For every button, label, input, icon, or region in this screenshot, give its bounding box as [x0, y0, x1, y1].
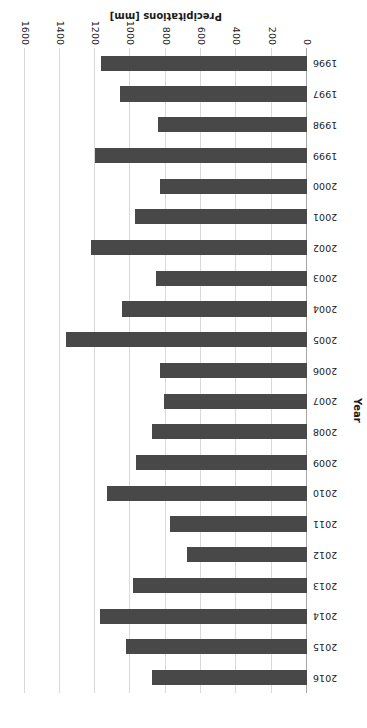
bar-row: 2015 [25, 632, 307, 663]
category-label-2010: 2010 [313, 488, 337, 499]
bar-2002 [91, 240, 307, 255]
bar-2009 [136, 455, 307, 470]
category-label-1999: 1999 [313, 150, 337, 161]
bar-2006 [160, 363, 307, 378]
bar-2015 [126, 639, 307, 654]
category-label-1998: 1998 [313, 119, 337, 130]
bar-row: 2011 [25, 509, 307, 540]
category-label-2000: 2000 [313, 181, 337, 192]
bar-2010 [107, 486, 307, 501]
category-label-2014: 2014 [313, 611, 337, 622]
category-label-2012: 2012 [313, 549, 337, 560]
value-axis-title: Precipitations [mm] [25, 11, 307, 22]
bar-2004 [122, 301, 307, 316]
bar-2000 [160, 179, 307, 194]
category-axis-title: Year [352, 398, 363, 423]
bar-1999 [95, 148, 307, 163]
value-tick-label-1200: 1200 [90, 21, 101, 45]
bar-2003 [156, 271, 307, 286]
bar-row: 2001 [25, 202, 307, 233]
bar-2007 [164, 394, 307, 409]
bar-2008 [152, 424, 307, 439]
value-tick-label-800: 800 [160, 27, 171, 45]
bar-2011 [170, 516, 307, 531]
bar-2012 [187, 547, 307, 562]
value-tick-label-1400: 1400 [54, 21, 65, 45]
category-label-2011: 2011 [313, 519, 337, 530]
category-label-2009: 2009 [313, 457, 337, 468]
bar-2001 [135, 209, 307, 224]
category-label-2005: 2005 [313, 334, 337, 345]
bar-row: 2005 [25, 324, 307, 355]
category-label-2006: 2006 [313, 365, 337, 376]
bar-row: 2004 [25, 294, 307, 325]
bar-row: 2007 [25, 386, 307, 417]
value-tick-label-1000: 1000 [125, 21, 136, 45]
bar-row: 2008 [25, 417, 307, 448]
category-label-2002: 2002 [313, 242, 337, 253]
category-label-2015: 2015 [313, 641, 337, 652]
category-label-2013: 2013 [313, 580, 337, 591]
bar-row: 2000 [25, 171, 307, 202]
bar-row: 2006 [25, 355, 307, 386]
bar-2005 [66, 332, 307, 347]
value-tick-label-0: 0 [302, 39, 313, 45]
bar-row: 2012 [25, 539, 307, 570]
bar-2016 [152, 670, 307, 685]
bar-row: 2013 [25, 570, 307, 601]
bar-row: 1998 [25, 109, 307, 140]
category-label-2001: 2001 [313, 211, 337, 222]
bar-row: 2016 [25, 662, 307, 693]
value-tick-label-400: 400 [231, 27, 242, 45]
category-label-2008: 2008 [313, 426, 337, 437]
chart-figure-rotator: 1996199719981999200020012002200320042005… [0, 0, 367, 728]
bar-row: 1996 [25, 48, 307, 79]
bar-row: 2014 [25, 601, 307, 632]
bar-row: 2009 [25, 447, 307, 478]
bar-1998 [158, 117, 307, 132]
category-label-2004: 2004 [313, 304, 337, 315]
bar-row: 2002 [25, 232, 307, 263]
bar-row: 2003 [25, 263, 307, 294]
bar-1996 [101, 56, 307, 71]
category-label-2007: 2007 [313, 396, 337, 407]
category-label-1996: 1996 [313, 58, 337, 69]
category-label-1997: 1997 [313, 89, 337, 100]
bar-1997 [120, 86, 307, 101]
plot-area: 1996199719981999200020012002200320042005… [25, 48, 307, 693]
value-tick-label-600: 600 [196, 27, 207, 45]
bar-2013 [133, 578, 307, 593]
bar-row: 1999 [25, 140, 307, 171]
value-tick-label-1600: 1600 [19, 21, 30, 45]
bar-row: 1997 [25, 79, 307, 110]
category-label-2016: 2016 [313, 672, 337, 683]
bar-2014 [101, 609, 308, 624]
bar-row: 2010 [25, 478, 307, 509]
precipitations-bar-chart: 1996199719981999200020012002200320042005… [0, 0, 367, 728]
category-label-2003: 2003 [313, 273, 337, 284]
value-tick-label-200: 200 [266, 27, 277, 45]
